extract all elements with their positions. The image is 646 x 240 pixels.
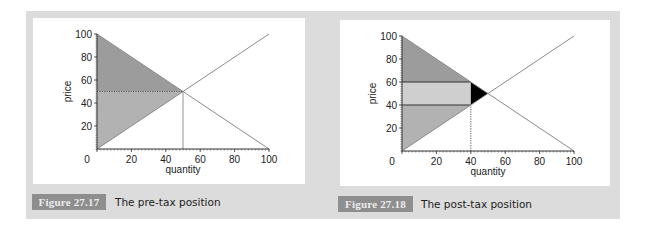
figure-caption-post-tax: The post-tax position [421,196,532,212]
y-tick-label: 100 [380,31,397,42]
x-tick-label: 100 [566,156,583,167]
y-tick-label: 80 [386,54,398,65]
figure-label-pre-tax: Figure 27.17 [32,194,106,210]
x-tick-label: 80 [534,156,546,167]
figure-caption-pre-tax: The pre-tax position [115,194,221,210]
tax-revenue-region [402,82,471,105]
y-axis-title: price [367,82,378,104]
x-axis-title: quantity [470,166,505,177]
y-tick-label: 20 [386,123,398,134]
x-tick-label: 20 [431,156,443,167]
figure-label-post-tax: Figure 27.18 [338,196,413,212]
x-tick-label: 0 [389,156,395,167]
deadweight-loss-region [471,82,488,105]
y-tick-label: 60 [386,77,398,88]
y-tick-label: 40 [386,100,398,111]
